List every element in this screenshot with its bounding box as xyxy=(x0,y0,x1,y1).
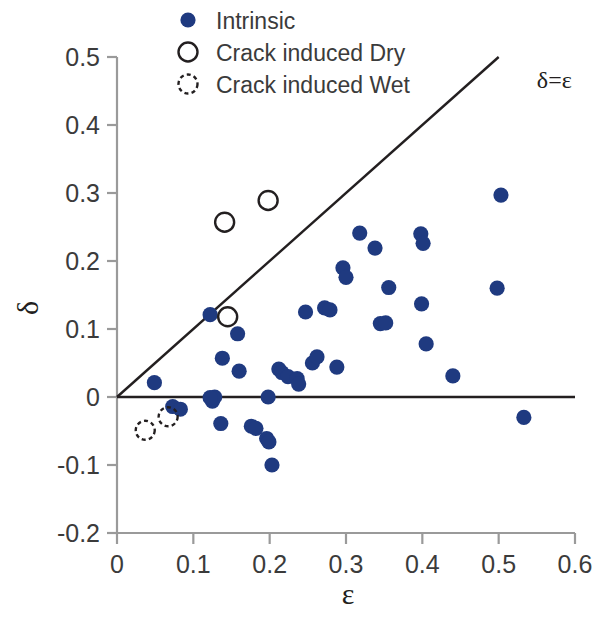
data-point xyxy=(352,226,367,241)
x-axis-title: ε xyxy=(342,577,355,610)
legend-label: Intrinsic xyxy=(216,8,295,34)
data-point xyxy=(367,240,382,255)
y-tick-label: 0 xyxy=(86,383,100,411)
x-tick-label: 0.6 xyxy=(558,550,593,578)
data-point xyxy=(147,375,162,390)
y-tick-label: 0.5 xyxy=(65,43,100,71)
data-point xyxy=(203,307,218,322)
reference-lines xyxy=(117,57,575,397)
chart-legend: IntrinsicCrack induced DryCrack induced … xyxy=(179,8,411,98)
data-point xyxy=(445,368,460,383)
x-axis-tick-labels: 00.10.20.30.40.50.6 xyxy=(110,550,592,578)
data-point xyxy=(415,236,430,251)
y-axis-tick-labels: 0.50.40.30.20.10-0.1-0.2 xyxy=(57,43,100,547)
data-point xyxy=(381,280,396,295)
data-point xyxy=(203,390,218,405)
x-axis-ticks xyxy=(117,533,575,544)
identity-line-annotation: δ=ε xyxy=(537,67,572,93)
data-point xyxy=(309,349,324,364)
legend-marker-open-circle xyxy=(179,43,198,62)
x-tick-label: 0 xyxy=(110,550,124,578)
data-point xyxy=(490,281,505,296)
data-point xyxy=(419,336,434,351)
x-tick-label: 0.2 xyxy=(252,550,287,578)
data-point xyxy=(329,359,344,374)
data-point xyxy=(322,302,337,317)
legend-label: Crack induced Wet xyxy=(216,72,410,98)
data-point xyxy=(232,364,247,379)
data-point xyxy=(291,376,306,391)
x-tick-label: 0.3 xyxy=(329,550,364,578)
y-axis-title: δ xyxy=(11,301,44,315)
data-point xyxy=(261,389,276,404)
x-tick-label: 0.1 xyxy=(176,550,211,578)
data-point xyxy=(215,351,230,366)
data-point xyxy=(493,187,508,202)
y-tick-label: 0.2 xyxy=(65,247,100,275)
data-point xyxy=(261,434,276,449)
data-point xyxy=(264,457,279,472)
identity-line xyxy=(117,57,499,397)
legend-item: Intrinsic xyxy=(180,8,295,34)
legend-item: Crack induced Wet xyxy=(179,72,411,98)
data-point xyxy=(259,191,278,210)
data-point xyxy=(378,315,393,330)
legend-marker-filled-circle xyxy=(180,12,195,27)
y-tick-label: 0.4 xyxy=(65,111,100,139)
series-crack-induced-dry-points xyxy=(215,191,278,326)
legend-marker-dashed-open-circle xyxy=(179,75,198,94)
scatter-plot-figure: 0.50.40.30.20.10-0.1-0.2 00.10.20.30.40.… xyxy=(0,0,605,629)
y-tick-label: 0.1 xyxy=(65,315,100,343)
y-tick-label: -0.2 xyxy=(57,519,100,547)
data-point xyxy=(218,307,237,326)
legend-item: Crack induced Dry xyxy=(179,40,406,66)
chart-svg: 0.50.40.30.20.10-0.1-0.2 00.10.20.30.40.… xyxy=(0,0,605,629)
data-point xyxy=(136,421,155,440)
x-tick-label: 0.5 xyxy=(481,550,516,578)
data-point xyxy=(516,410,531,425)
series-intrinsic-points xyxy=(147,187,532,472)
data-point xyxy=(215,213,234,232)
data-point xyxy=(213,416,228,431)
axis-spines xyxy=(117,57,575,533)
x-tick-label: 0.4 xyxy=(405,550,440,578)
y-tick-label: -0.1 xyxy=(57,451,100,479)
legend-label: Crack induced Dry xyxy=(216,40,406,66)
data-point xyxy=(230,326,245,341)
y-tick-label: 0.3 xyxy=(65,179,100,207)
data-point xyxy=(414,296,429,311)
data-point xyxy=(338,270,353,285)
data-point xyxy=(298,304,313,319)
y-axis-ticks xyxy=(107,57,117,533)
